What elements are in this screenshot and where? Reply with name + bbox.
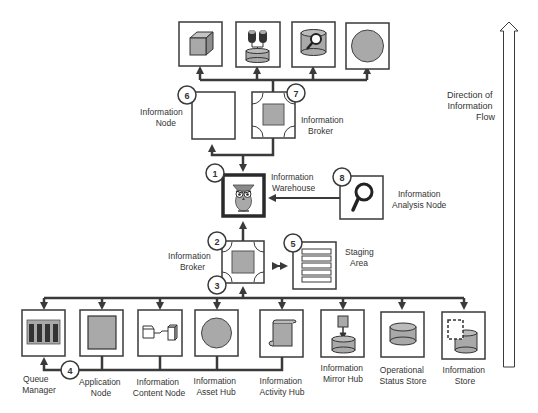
information-warehouse[interactable]: Information Warehouse: [223, 172, 316, 216]
information-mirror-hub[interactable]: Information Mirror Hub: [321, 310, 366, 384]
svg-text:4: 4: [67, 366, 72, 376]
application-node-label: Application Node: [79, 377, 123, 398]
information-activity-hub[interactable]: Information Activity Hub: [260, 310, 305, 397]
svg-text:2: 2: [214, 237, 219, 247]
badge-5: 5: [284, 234, 302, 252]
top-node-database-search[interactable]: [292, 22, 335, 67]
return-bus: [44, 356, 282, 370]
badge-4: 4: [61, 361, 79, 379]
svg-text:7: 7: [293, 89, 298, 99]
svg-text:1: 1: [212, 169, 217, 179]
information-mirror-hub-label: Information Mirror Hub: [321, 363, 366, 384]
svg-text:5: 5: [290, 239, 295, 249]
top-node-people-database[interactable]: [236, 22, 280, 67]
top-bus: [200, 70, 367, 92]
staging-area-label: Staging Area: [345, 247, 376, 268]
svg-text:6: 6: [184, 91, 189, 101]
cube-icon: [190, 32, 213, 55]
badge-7: 7: [287, 84, 305, 102]
application-node[interactable]: Application Node: [79, 310, 123, 398]
svg-text:3: 3: [214, 281, 219, 291]
information-analysis-node-label: Information Analysis Node: [392, 189, 447, 210]
information-broker-lower-label: Information Broker: [168, 251, 213, 272]
information-broker-upper-label: Information Broker: [301, 115, 346, 136]
flow-label: Direction of Information Flow: [447, 90, 496, 122]
database-icon: [390, 323, 416, 345]
direction-of-flow-arrow: [500, 22, 518, 367]
bottom-bus: [44, 290, 464, 306]
badge-1: 1: [206, 164, 224, 182]
information-content-node[interactable]: Information Content Node: [133, 310, 186, 398]
operational-status-store[interactable]: Operational Status Store: [380, 312, 427, 386]
information-asset-hub-label: Information Asset Hub: [194, 376, 239, 397]
scroll-icon: [269, 320, 296, 346]
staging-list-icon: [302, 249, 331, 282]
information-activity-hub-label: Information Activity Hub: [260, 376, 305, 397]
queue-icon: [27, 320, 60, 344]
information-warehouse-label: Information Warehouse: [271, 172, 316, 193]
information-store-label: Information Store: [443, 365, 488, 386]
information-store[interactable]: Information Store: [442, 312, 487, 386]
badge-8: 8: [333, 168, 351, 186]
queue-manager-label: Queue Manager: [22, 374, 56, 395]
badge-6: 6: [178, 86, 196, 104]
architecture-diagram: Information Node 6 Information Broker 7: [0, 0, 538, 413]
circle-icon: [352, 30, 384, 62]
upper-connectors: [212, 138, 273, 168]
badge-3: 3: [208, 276, 226, 294]
information-analysis-node[interactable]: Information Analysis Node: [340, 176, 447, 219]
circle-icon: [202, 318, 232, 348]
top-node-circle[interactable]: [346, 23, 389, 69]
application-icon: [88, 316, 116, 349]
badge-2: 2: [208, 232, 226, 250]
information-content-node-label: Information Content Node: [133, 377, 186, 398]
staging-area[interactable]: Staging Area: [293, 242, 376, 289]
database-search-icon: [301, 30, 326, 56]
svg-text:8: 8: [339, 173, 344, 183]
information-node-label: Information Node: [140, 107, 185, 128]
operational-status-store-label: Operational Status Store: [380, 365, 427, 386]
top-node-cube[interactable]: [179, 22, 222, 66]
information-asset-hub[interactable]: Information Asset Hub: [194, 310, 239, 397]
queue-manager[interactable]: Queue Manager: [22, 310, 65, 395]
